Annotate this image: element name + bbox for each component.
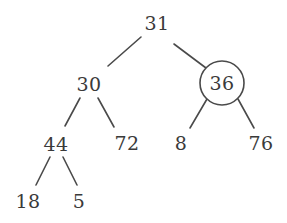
tree-edge — [36, 157, 50, 185]
tree-edge — [98, 98, 114, 127]
tree-node-5: 5 — [73, 192, 86, 211]
tree-node-30: 30 — [76, 75, 101, 94]
tree-node-36: 36 — [209, 74, 234, 93]
binary-tree-figure: 3130364472876185 — [0, 0, 287, 223]
tree-node-44: 44 — [43, 135, 68, 154]
tree-node-18: 18 — [15, 192, 40, 211]
tree-edge — [238, 99, 254, 128]
tree-edge — [108, 37, 141, 66]
tree-node-72: 72 — [114, 134, 139, 153]
edge-group — [36, 37, 254, 185]
tree-edge — [65, 98, 80, 126]
tree-node-8: 8 — [175, 134, 188, 153]
tree-edge — [190, 99, 207, 128]
tree-node-31: 31 — [144, 14, 169, 33]
tree-edge — [63, 157, 77, 185]
tree-node-76: 76 — [248, 134, 273, 153]
tree-edge — [174, 44, 206, 68]
